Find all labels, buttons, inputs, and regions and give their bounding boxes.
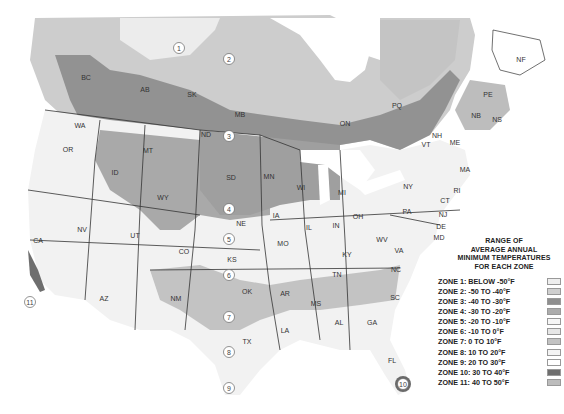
region-label: GA: [367, 319, 377, 326]
legend-swatch: [547, 369, 561, 376]
zone-marker: 9: [224, 383, 235, 394]
zone-legend: RANGE OF AVERAGE ANNUAL MINIMUM TEMPERAT…: [462, 237, 564, 387]
region-label: LA: [281, 327, 290, 334]
region-label: CT: [440, 197, 450, 204]
region-label: WY: [157, 194, 169, 201]
legend-row: ZONE 9: 20 TO 30°F: [438, 357, 564, 367]
legend-swatch: [547, 359, 561, 366]
region-label: NF: [516, 56, 525, 63]
region-label: AL: [335, 319, 344, 326]
region-label: TN: [332, 271, 341, 278]
legend-label: ZONE 10: 30 TO 40°F: [438, 368, 542, 377]
legend-rows: ZONE 1: BELOW -50°F ZONE 2: -50 TO -40°F…: [438, 276, 564, 387]
svg-text:7: 7: [227, 314, 231, 321]
region-label: CA: [33, 237, 43, 244]
legend-label: ZONE 1: BELOW -50°F: [438, 277, 542, 286]
region-label: MB: [235, 111, 246, 118]
region-label: SD: [226, 174, 236, 181]
legend-title: RANGE OF AVERAGE ANNUAL MINIMUM TEMPERAT…: [442, 237, 564, 271]
region-label: NV: [77, 226, 87, 233]
legend-swatch: [547, 338, 561, 345]
region-label: MT: [143, 147, 154, 154]
svg-text:5: 5: [227, 236, 231, 243]
zone-marker: 1: [174, 43, 185, 54]
zone-marker: 11: [25, 297, 36, 308]
region-label: PE: [483, 91, 493, 98]
legend-title-line: FOR EACH ZONE: [442, 263, 564, 272]
region-label: PQ: [392, 102, 403, 110]
zone-marker: 8: [224, 347, 235, 358]
region-label: AZ: [100, 295, 110, 302]
legend-title-line: MINIMUM TEMPERATURES: [442, 254, 564, 263]
legend-label: ZONE 8: 10 TO 20°F: [438, 348, 542, 357]
region-label: KY: [342, 251, 352, 258]
svg-text:9: 9: [227, 385, 231, 392]
legend-title-line: RANGE OF: [442, 237, 564, 246]
legend-swatch: [547, 379, 561, 386]
legend-row: ZONE 7: 0 TO 10°F: [438, 337, 564, 347]
region-label: NH: [432, 132, 442, 139]
zone-marker: 5: [224, 234, 235, 245]
region-label: KS: [227, 256, 237, 263]
svg-text:4: 4: [227, 206, 231, 213]
legend-label: ZONE 9: 20 TO 30°F: [438, 358, 542, 367]
region-label: NS: [492, 116, 502, 123]
region-label: NE: [236, 220, 246, 227]
legend-row: ZONE 2: -50 TO -40°F: [438, 286, 564, 296]
svg-text:11: 11: [26, 299, 33, 306]
svg-text:1: 1: [177, 45, 181, 52]
region-label: OR: [63, 146, 74, 153]
region-label: WA: [74, 122, 85, 129]
region-label: MN: [264, 173, 275, 180]
region-label: ID: [112, 169, 119, 176]
region-label: NJ: [439, 211, 448, 218]
legend-row: ZONE 10: 30 TO 40°F: [438, 367, 564, 377]
region-label: SK: [187, 91, 197, 98]
legend-swatch: [547, 349, 561, 356]
svg-text:6: 6: [227, 272, 231, 279]
region-label: AR: [280, 290, 290, 297]
zone-marker: 3: [224, 131, 235, 142]
legend-row: ZONE 4: -30 TO -20°F: [438, 307, 564, 317]
region-label: MO: [277, 240, 289, 247]
region-label: VA: [395, 247, 404, 254]
zone-marker: 2: [224, 54, 235, 65]
region-label: RI: [454, 187, 461, 194]
region-label: PA: [403, 208, 412, 215]
region-label: DE: [436, 223, 446, 230]
legend-swatch: [547, 318, 561, 325]
legend-row: ZONE 8: 10 TO 20°F: [438, 347, 564, 357]
svg-text:8: 8: [227, 349, 231, 356]
region-label: BC: [81, 74, 91, 81]
svg-text:2: 2: [227, 56, 231, 63]
legend-swatch: [547, 288, 561, 295]
legend-label: ZONE 4: -30 TO -20°F: [438, 307, 542, 316]
region-label: NY: [403, 183, 413, 190]
legend-title-line: AVERAGE ANNUAL: [442, 246, 564, 255]
region-label: CO: [179, 248, 190, 255]
region-label: OH: [353, 213, 364, 220]
region-label: FL: [388, 357, 396, 364]
region-label: WV: [376, 236, 388, 243]
region-label: MI: [338, 189, 346, 196]
region-label: SC: [390, 294, 400, 301]
region-label: ND: [201, 131, 211, 138]
region-label: WI: [297, 184, 306, 191]
zone-marker: 10: [398, 379, 409, 390]
legend-swatch: [547, 298, 561, 305]
legend-swatch: [547, 308, 561, 315]
region-label: OK: [242, 288, 252, 295]
legend-label: ZONE 11: 40 TO 50°F: [438, 378, 542, 387]
zone-marker: 6: [224, 270, 235, 281]
zone-marker: 4: [224, 204, 235, 215]
svg-text:10: 10: [399, 381, 407, 388]
legend-swatch: [547, 328, 561, 335]
legend-label: ZONE 7: 0 TO 10°F: [438, 337, 542, 346]
region-label: MA: [460, 166, 471, 173]
region-label: ON: [340, 120, 351, 127]
region-label: ME: [450, 139, 461, 146]
region-label: UT: [130, 232, 140, 239]
legend-label: ZONE 2: -50 TO -40°F: [438, 287, 542, 296]
legend-label: ZONE 3: -40 TO -30°F: [438, 297, 542, 306]
region-label: NC: [391, 266, 401, 273]
